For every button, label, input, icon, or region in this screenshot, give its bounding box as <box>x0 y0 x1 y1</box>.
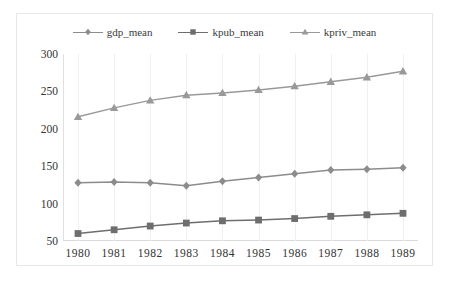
data-point-diamond <box>147 179 154 187</box>
series-line <box>78 213 403 233</box>
data-point-square <box>327 213 334 220</box>
series-line <box>78 168 403 186</box>
data-point-square <box>75 230 82 237</box>
line-chart: gdp_meankpub_meankpriv_mean 300250200150… <box>0 0 449 282</box>
x-tick-label: 1989 <box>380 247 426 259</box>
legend-marker-diamond-icon <box>73 27 103 37</box>
data-point-square <box>255 217 262 224</box>
data-point-square <box>147 223 154 230</box>
legend-label: kpriv_mean <box>323 26 377 38</box>
data-point-square <box>219 217 226 224</box>
series-gdp_mean <box>74 164 406 190</box>
legend-marker-triangle-icon <box>290 27 320 37</box>
legend-item-kpub_mean: kpub_mean <box>178 26 263 38</box>
series-kpub_mean <box>75 210 407 237</box>
series-kpriv_mean <box>74 67 407 120</box>
data-point-triangle <box>399 67 407 74</box>
data-point-diamond <box>327 166 334 174</box>
y-tick-label: 200 <box>18 123 58 135</box>
data-point-square <box>183 220 190 227</box>
data-point-diamond <box>255 173 262 181</box>
data-point-square <box>111 226 118 233</box>
data-point-diamond <box>291 170 298 178</box>
data-point-diamond <box>183 182 190 190</box>
legend-marker-glyph <box>189 28 197 36</box>
data-point-diamond <box>111 178 118 186</box>
legend-marker-square-icon <box>178 27 208 37</box>
data-point-square <box>363 211 370 218</box>
x-axis-labels: 1980198119821983198419851986198719881989 <box>63 247 418 263</box>
y-tick-label: 100 <box>18 198 58 210</box>
y-tick-label: 150 <box>18 160 58 172</box>
legend-item-kpriv_mean: kpriv_mean <box>290 26 377 38</box>
y-tick-label: 250 <box>18 85 58 97</box>
series-line <box>78 71 403 117</box>
data-point-square <box>191 29 196 34</box>
legend-label: gdp_mean <box>106 26 153 38</box>
legend-item-gdp_mean: gdp_mean <box>73 26 153 38</box>
legend-marker-glyph <box>84 28 92 36</box>
data-point-square <box>291 215 298 222</box>
y-tick-label: 300 <box>18 48 58 60</box>
data-point-diamond <box>219 177 226 185</box>
plot-area <box>63 54 418 241</box>
y-tick-label: 50 <box>18 235 58 247</box>
data-point-triangle <box>301 29 308 35</box>
data-point-diamond <box>399 164 406 172</box>
series-layer <box>63 54 418 241</box>
y-axis-labels: 30025020015010050 <box>18 54 58 241</box>
data-point-diamond <box>74 179 81 187</box>
chart-legend: gdp_meankpub_meankpriv_mean <box>16 22 433 42</box>
data-point-diamond <box>85 29 91 35</box>
data-point-diamond <box>363 165 370 173</box>
legend-label: kpub_mean <box>211 26 263 38</box>
data-point-square <box>400 210 407 217</box>
legend-marker-glyph <box>301 28 309 36</box>
